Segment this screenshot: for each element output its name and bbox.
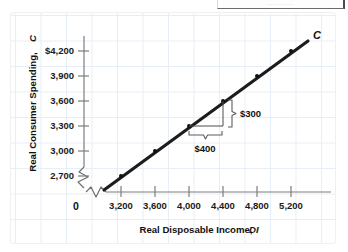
- y-tick-label: 3,600: [50, 95, 74, 106]
- x-tick-label: 3,600: [143, 200, 167, 211]
- y-tick-label: 3,900: [50, 70, 74, 81]
- x-axis-title: Real Disposable Income, DI: [139, 224, 258, 235]
- x-axis-tick-labels: 3,200 3,600 4,000 4,400 4,800 5,200: [109, 200, 303, 211]
- x-tick-label: 3,200: [109, 200, 133, 211]
- x-tick-label: 4,800: [245, 200, 269, 211]
- series-label-c: C: [313, 29, 322, 41]
- svg-text:Real Consumer Spending,: Real Consumer Spending,: [27, 52, 38, 172]
- x-tick-label: 4,000: [177, 200, 201, 211]
- data-point: [289, 49, 293, 53]
- data-point: [153, 149, 157, 153]
- consumption-function-line: [104, 41, 308, 190]
- x-axis-break-icon: [86, 187, 106, 197]
- x-axis-title-main: Real Disposable Income,: [139, 224, 252, 235]
- svg-text:C: C: [27, 34, 38, 42]
- svg-text:DI: DI: [249, 224, 259, 235]
- data-point: [255, 74, 259, 78]
- y-axis-break-icon: [78, 167, 88, 188]
- y-tick-label: $4,200: [45, 45, 74, 56]
- rise-annotation-label: $300: [240, 108, 261, 119]
- svg-text:Real Disposable Income,: Real Disposable Income,: [139, 224, 252, 235]
- x-axis-title-italic: DI: [249, 224, 259, 235]
- x-tick-label: 4,400: [211, 200, 235, 211]
- data-point: [119, 174, 123, 178]
- y-axis-tick-labels: $4,200 3,900 3,600 3,300 3,000 2,700: [45, 45, 74, 181]
- consumption-function-chart: $4,200 3,900 3,600 3,300 3,000 2,700 3,2…: [0, 0, 348, 252]
- rise-bracket: [228, 100, 236, 127]
- x-tick-label: 5,200: [279, 200, 303, 211]
- y-tick-label: 3,300: [50, 120, 74, 131]
- y-axis-title-italic: C: [27, 34, 38, 42]
- y-tick-label: 2,700: [50, 170, 74, 181]
- run-annotation-label: $400: [194, 143, 215, 154]
- run-bracket: [189, 131, 222, 139]
- y-axis-title-main: Real Consumer Spending,: [27, 52, 38, 172]
- y-tick-label: 3,000: [50, 145, 74, 156]
- y-axis-title: Real Consumer Spending, C: [27, 34, 38, 172]
- origin-label: 0: [73, 200, 79, 212]
